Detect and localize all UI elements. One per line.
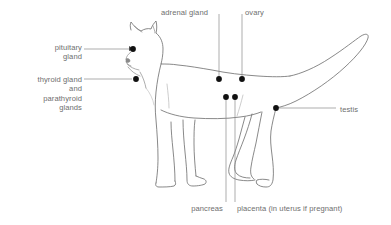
label-thyroid-and-parathyroid-glands: thyroid glandandparathyroidglands	[12, 75, 82, 113]
cat-nose-icon	[126, 59, 130, 63]
label-pituitary-gland: pituitarygland	[34, 43, 82, 62]
cat-tail-outline	[276, 34, 368, 108]
label-line: placenta (in uterus if pregnant)	[237, 204, 381, 213]
cat-outline-group	[130, 21, 368, 187]
label-placenta: placenta (in uterus if pregnant)	[237, 204, 381, 213]
label-line: thyroid gland	[12, 75, 82, 84]
cat-rump-outline	[257, 108, 276, 187]
cat-cheek-detail	[140, 72, 146, 88]
label-line: pancreas	[180, 204, 223, 213]
leader-lines-group	[84, 14, 336, 202]
cat-belly-outline	[161, 110, 261, 119]
cat-haunch-detail	[237, 95, 243, 116]
cat-chest-outline	[155, 64, 161, 183]
cat-shoulder-detail	[167, 84, 169, 108]
label-line: testis	[340, 105, 368, 114]
endocrine-gland-diagram: pituitaryglandthyroid glandandparathyroi…	[0, 0, 391, 225]
marker-dot-thyroid-and-parathyroid-glands	[133, 76, 139, 82]
label-line: glands	[12, 103, 82, 112]
marker-dot-pancreas	[223, 94, 229, 100]
label-line: adrenal gland	[161, 8, 219, 17]
label-adrenal-gland: adrenal gland	[161, 8, 219, 17]
marker-dot-adrenal-gland	[216, 76, 222, 82]
cat-foreleg-far-inner-outline	[194, 120, 196, 176]
cat-ear-far-inner-detail	[153, 26, 155, 33]
cat-foreleg-near-back-outline	[171, 122, 175, 181]
marker-dot-pituitary-gland	[130, 46, 136, 52]
label-line: and	[12, 84, 82, 93]
marker-dots-group	[130, 46, 279, 111]
marker-dot-ovary	[239, 76, 245, 82]
marker-dot-testis	[273, 105, 279, 111]
cat-neck-detail	[146, 88, 154, 105]
marker-dot-placenta	[232, 94, 238, 100]
label-line: gland	[34, 52, 82, 61]
cat-hind-leg-near-outline	[229, 117, 255, 181]
cat-front-paw-near-outline	[156, 181, 176, 187]
label-line: parathyroid	[12, 94, 82, 103]
label-line: pituitary	[34, 43, 82, 52]
cat-hind-paw-rear-outline	[256, 179, 269, 184]
label-ovary: ovary	[245, 8, 271, 17]
cat-hind-leg-shank-outline	[251, 112, 262, 179]
label-line: ovary	[245, 8, 271, 17]
label-testis: testis	[340, 105, 368, 114]
label-pancreas: pancreas	[180, 204, 223, 213]
